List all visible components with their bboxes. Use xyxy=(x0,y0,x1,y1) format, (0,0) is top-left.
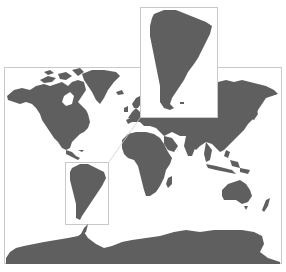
iceland xyxy=(116,90,124,95)
world-map-svg xyxy=(0,0,286,272)
greenland xyxy=(82,70,120,104)
new-zealand xyxy=(262,198,270,212)
madagascar xyxy=(166,176,172,188)
falkland-islands xyxy=(180,102,184,104)
australia xyxy=(222,180,252,204)
tasmania xyxy=(244,206,248,210)
south-america-inset xyxy=(141,8,218,118)
world-map: South America xyxy=(0,0,286,272)
north-america xyxy=(7,68,90,160)
south-america xyxy=(70,164,106,220)
antarctica xyxy=(6,230,280,264)
